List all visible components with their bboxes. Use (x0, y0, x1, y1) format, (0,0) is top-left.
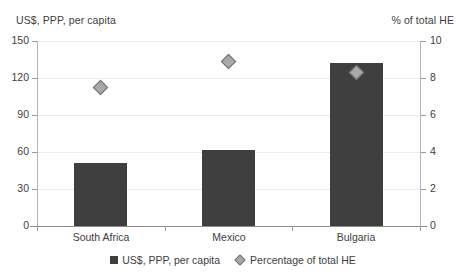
legend-square-icon (110, 256, 118, 264)
left-axis-tick-label: 150 (11, 35, 29, 46)
chart-container: US$, PPP, per capita % of total HE 03060… (0, 0, 466, 276)
right-axis-tick-label: 4 (430, 146, 436, 157)
left-axis-tick-label: 90 (17, 109, 29, 120)
right-axis-tick-label: 6 (430, 109, 436, 120)
legend-diamond-icon (234, 254, 245, 265)
left-axis-tick-label: 0 (23, 220, 29, 231)
left-axis-tick-label: 60 (17, 146, 29, 157)
bar (74, 163, 127, 226)
left-axis-tick-label: 120 (11, 72, 29, 83)
left-axis-title: US$, PPP, per capita (16, 14, 116, 26)
legend-item[interactable]: US$, PPP, per capita (110, 254, 220, 266)
right-axis-tick-label: 0 (430, 220, 436, 231)
gridline (37, 41, 420, 42)
bar (330, 63, 383, 226)
data-point-marker (221, 53, 237, 69)
x-axis-line (30, 226, 427, 227)
right-axis-tick-label: 10 (430, 35, 442, 46)
right-axis-line (420, 41, 421, 227)
legend-label: Percentage of total HE (250, 254, 356, 266)
x-axis-category-label: Bulgaria (292, 231, 420, 243)
right-axis-tick-label: 2 (430, 183, 436, 194)
right-axis-title: % of total HE (391, 14, 454, 26)
left-axis-line (37, 41, 38, 227)
right-axis-tick (421, 115, 426, 116)
bar (202, 150, 255, 226)
right-axis-tick-label: 8 (430, 72, 436, 83)
x-axis-category-label: Mexico (165, 231, 293, 243)
right-axis-tick (421, 152, 426, 153)
data-point-marker (93, 79, 109, 95)
legend-item[interactable]: Percentage of total HE (234, 254, 356, 266)
chart-legend: US$, PPP, per capitaPercentage of total … (0, 254, 466, 266)
x-axis-edge-tick (37, 226, 38, 231)
right-axis-tick (421, 189, 426, 190)
legend-label: US$, PPP, per capita (122, 254, 220, 266)
right-axis-tick (421, 78, 426, 79)
x-axis-edge-tick (420, 226, 421, 231)
x-axis-category-label: South Africa (37, 231, 165, 243)
left-axis-tick-label: 30 (17, 183, 29, 194)
right-axis-tick (421, 41, 426, 42)
